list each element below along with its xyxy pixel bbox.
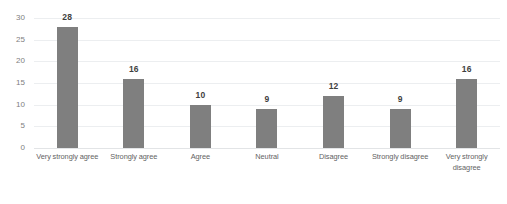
x-axis-tick-label: Strongly agree xyxy=(101,152,168,163)
y-axis-tick-label: 30 xyxy=(1,14,25,22)
x-axis-tick-label: Very strongly agree xyxy=(34,152,101,163)
y-axis-tick-label: 10 xyxy=(1,101,25,109)
bar xyxy=(190,105,211,148)
y-axis-tick-label: 25 xyxy=(1,36,25,44)
bar xyxy=(456,79,477,148)
gridline xyxy=(34,148,500,149)
bar-value-label: 12 xyxy=(300,82,367,91)
x-axis-tick-label: Strongly disagree xyxy=(367,152,434,163)
x-axis-tick-label: Disagree xyxy=(300,152,367,163)
bar-value-label: 16 xyxy=(101,65,168,74)
x-axis-tick-label: Agree xyxy=(167,152,234,163)
bar-value-label: 9 xyxy=(234,95,301,104)
bar-chart: 302520151050 281610912916 Very strongly … xyxy=(0,0,507,204)
y-axis: 302520151050 xyxy=(0,0,34,204)
y-axis-tick-label: 5 xyxy=(1,122,25,130)
y-axis-tick-label: 20 xyxy=(1,57,25,65)
bar-value-label: 16 xyxy=(433,65,500,74)
bar-group: 16 xyxy=(433,0,500,148)
bar-group: 16 xyxy=(101,0,168,148)
y-axis-tick-label: 0 xyxy=(1,144,25,152)
bar-group: 28 xyxy=(34,0,101,148)
x-axis-tick-label: Neutral xyxy=(234,152,301,163)
bar xyxy=(323,96,344,148)
bar xyxy=(123,79,144,148)
bar xyxy=(256,109,277,148)
bar-group: 9 xyxy=(234,0,301,148)
bar-group: 10 xyxy=(167,0,234,148)
y-axis-tick-label: 15 xyxy=(1,79,25,87)
bar-group: 12 xyxy=(300,0,367,148)
bar-value-label: 9 xyxy=(367,95,434,104)
x-axis-category-labels: Very strongly agreeStrongly agreeAgreeNe… xyxy=(34,152,500,204)
bar-value-label: 28 xyxy=(34,13,101,22)
bars-layer: 281610912916 xyxy=(34,0,500,148)
bar-value-label: 10 xyxy=(167,91,234,100)
bar xyxy=(390,109,411,148)
bar-group: 9 xyxy=(367,0,434,148)
bar xyxy=(57,27,78,148)
x-axis-tick-label: Very strongly disagree xyxy=(433,152,500,173)
